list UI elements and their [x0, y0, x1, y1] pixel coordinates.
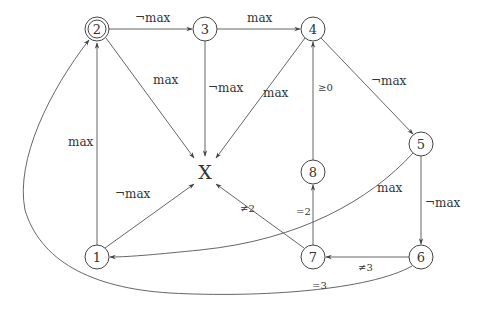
- node-2[interactable]: 2: [85, 17, 109, 41]
- label-edge-3-4: max: [247, 11, 273, 25]
- node-8-label: 8: [309, 165, 317, 180]
- node-6[interactable]: 6: [409, 245, 433, 269]
- state-graph: ¬max max max ¬max max ¬max ≥0 =2 ≠2 ¬max…: [0, 0, 477, 309]
- label-edge-7-X: ≠2: [240, 203, 255, 214]
- node-3-label: 3: [201, 22, 209, 37]
- label-edge-7-8: =2: [296, 206, 311, 217]
- label-edge-5-1: max: [377, 181, 403, 195]
- edge-7-X: [216, 184, 304, 248]
- label-edge-4-X: max: [263, 86, 289, 100]
- edge-5-1: [110, 153, 413, 257]
- label-edge-2-3: ¬max: [135, 11, 171, 25]
- edge-labels: ¬max max max ¬max max ¬max ≥0 =2 ≠2 ¬max…: [68, 11, 461, 291]
- node-7[interactable]: 7: [301, 245, 325, 269]
- edge-2-X: [106, 38, 194, 158]
- label-edge-3-X: ¬max: [208, 81, 244, 95]
- node-2-label: 2: [93, 22, 101, 37]
- label-edge-6-7: ≠3: [358, 262, 373, 273]
- node-6-label: 6: [417, 250, 425, 265]
- label-edge-1-X: ¬max: [115, 187, 151, 201]
- edges: [23, 29, 421, 294]
- node-5[interactable]: 5: [409, 132, 433, 156]
- label-edge-8-4: ≥0: [318, 82, 333, 93]
- node-5-label: 5: [417, 137, 425, 152]
- nodes: 2 3 4 X 8 5 1 7 6: [85, 17, 433, 269]
- label-edge-1-2: max: [68, 135, 94, 149]
- node-X[interactable]: X: [198, 161, 212, 183]
- label-edge-6-2: =3: [312, 280, 327, 291]
- node-4[interactable]: 4: [301, 17, 325, 41]
- label-edge-4-5: ¬max: [371, 74, 407, 88]
- edge-4-X: [216, 38, 305, 158]
- node-8[interactable]: 8: [301, 160, 325, 184]
- node-1-label: 1: [93, 250, 101, 265]
- node-3[interactable]: 3: [193, 17, 217, 41]
- label-edge-2-X: max: [153, 73, 179, 87]
- edge-6-2: [23, 40, 412, 294]
- node-X-label: X: [198, 161, 212, 183]
- node-4-label: 4: [309, 22, 317, 37]
- label-edge-5-6: ¬max: [425, 196, 461, 210]
- node-1[interactable]: 1: [85, 245, 109, 269]
- node-7-label: 7: [309, 250, 317, 265]
